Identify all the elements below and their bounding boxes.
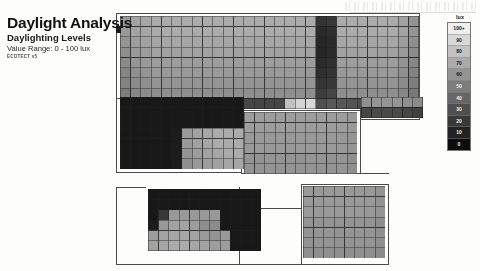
heatmap-canvas xyxy=(361,97,423,118)
legend-row: 0 xyxy=(448,139,470,150)
title-block: Daylight Analysis Daylighting Levels Val… xyxy=(7,14,132,60)
legend-row-label: 50 xyxy=(456,81,462,92)
heatmap-canvas xyxy=(120,97,244,169)
legend-row: 40 xyxy=(448,93,470,105)
legend-row: 50 xyxy=(448,81,470,93)
heatmap-canvas xyxy=(148,189,261,251)
legend-row-label: 70 xyxy=(456,58,462,69)
legend-row-label: 60 xyxy=(456,69,462,80)
plan-wall xyxy=(360,119,420,120)
plan-wall xyxy=(116,98,117,173)
legend-scale: 100+9080706050403020100 xyxy=(447,22,471,151)
legend-row: 60 xyxy=(448,69,470,81)
legend-row: 100+ xyxy=(448,23,470,35)
daylight-analysis-figure: Daylight Analysis Daylighting Levels Val… xyxy=(0,0,480,271)
legend: lux 100+9080706050403020100 xyxy=(447,14,473,151)
value-range-label: Value Range: 0 - 100 lux xyxy=(7,44,132,53)
heatmap-region xyxy=(303,186,385,258)
legend-row: 20 xyxy=(448,116,470,128)
plan-wall xyxy=(116,187,117,265)
heatmap-canvas xyxy=(244,112,357,174)
legend-row-label: 20 xyxy=(456,116,462,127)
page-title: Daylight Analysis xyxy=(7,14,132,31)
plan-wall xyxy=(116,264,322,265)
legend-row: 80 xyxy=(448,46,470,58)
legend-row: 70 xyxy=(448,58,470,70)
legend-row-label: 40 xyxy=(456,93,462,104)
heatmap-region xyxy=(361,97,423,118)
plan-wall xyxy=(301,264,389,265)
legend-row-label: 0 xyxy=(458,139,461,150)
heatmap-region xyxy=(148,189,261,251)
legend-row-label: 90 xyxy=(456,35,462,46)
plan-wall xyxy=(360,173,389,174)
plan-wall xyxy=(116,172,242,173)
plan-wall xyxy=(301,184,302,265)
plan-wall xyxy=(116,187,146,188)
plan-wall xyxy=(241,110,361,111)
heatmap-canvas xyxy=(120,16,419,109)
heatmap-region xyxy=(120,16,419,109)
legend-row: 30 xyxy=(448,104,470,116)
plan-wall xyxy=(419,13,420,99)
legend-row: 90 xyxy=(448,35,470,47)
legend-row-label: 10 xyxy=(456,127,462,138)
plan-wall xyxy=(116,13,420,14)
analysis-subtitle: Daylighting Levels xyxy=(7,32,132,43)
heatmap-region xyxy=(244,112,357,174)
legend-row-label: 100+ xyxy=(453,23,464,34)
plan-wall xyxy=(301,184,389,185)
legend-row-label: 80 xyxy=(456,46,462,57)
software-credit-label: ECOTECT v5 xyxy=(7,54,132,60)
legend-row-label: 30 xyxy=(456,104,462,115)
heatmap-canvas xyxy=(303,186,385,258)
heatmap-region xyxy=(120,97,244,169)
legend-unit-label: lux xyxy=(447,14,473,21)
plan-wall xyxy=(388,184,389,265)
legend-row: 10 xyxy=(448,127,470,139)
